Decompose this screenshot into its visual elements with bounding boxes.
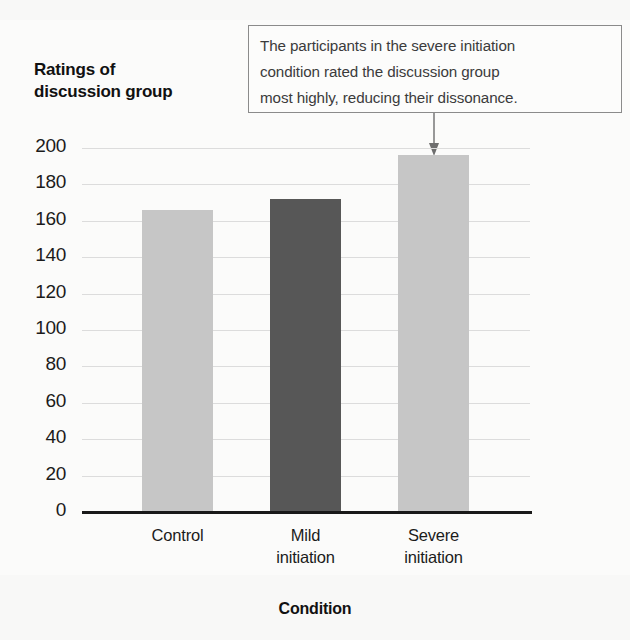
y-axis-tick-label: 160 xyxy=(10,208,66,230)
x-axis-title: Condition xyxy=(0,600,630,618)
bar-control xyxy=(142,210,213,512)
annotation-callout-text: The participants in the severe initiatio… xyxy=(260,33,611,111)
x-axis-category-label: Severe initiation xyxy=(364,524,503,568)
x-axis-line xyxy=(82,511,532,514)
bar-severe-initiation xyxy=(398,155,469,512)
annotation-callout-box: The participants in the severe initiatio… xyxy=(248,25,622,113)
y-axis-tick-label: 140 xyxy=(10,244,66,266)
y-axis-tick-label: 180 xyxy=(10,171,66,193)
y-axis-tick-label: 100 xyxy=(10,317,66,339)
y-axis-tick-label: 20 xyxy=(10,463,66,485)
scan-texture-band xyxy=(0,0,630,20)
y-axis-title: Ratings of discussion group xyxy=(34,59,172,103)
bar-mild-initiation xyxy=(270,199,341,512)
y-axis-tick-label: 40 xyxy=(10,426,66,448)
gridline xyxy=(82,148,530,149)
plot-area: 020406080100120140160180200ControlMild i… xyxy=(82,148,530,512)
x-axis-category-label: Mild initiation xyxy=(236,524,375,568)
x-axis-category-label: Control xyxy=(108,524,247,546)
y-axis-tick-label: 60 xyxy=(10,390,66,412)
y-axis-tick-label: 120 xyxy=(10,281,66,303)
y-axis-tick-label: 80 xyxy=(10,353,66,375)
y-axis-tick-label: 0 xyxy=(10,499,66,521)
y-axis-tick-label: 200 xyxy=(10,135,66,157)
bar-chart-figure: The participants in the severe initiatio… xyxy=(0,0,630,640)
